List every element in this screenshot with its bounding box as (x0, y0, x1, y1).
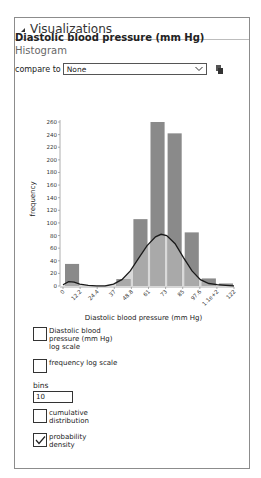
x-log-scale-label: Diastolic blood pressure (mm Hg) log sca… (49, 327, 119, 351)
chart-kind-label: Histogram (15, 45, 251, 56)
variable-title: Diastolic blood pressure (mm Hg) (15, 32, 251, 43)
y-tick-label: 80 (50, 233, 57, 239)
compare-selected-value: None (67, 65, 87, 74)
y-tick-label: 40 (50, 258, 57, 264)
density-area (63, 234, 234, 286)
y-tick-label: 160 (47, 182, 58, 188)
chevron-down-icon (195, 66, 203, 72)
histogram-chart: 020406080100120140160180200220240260012.… (14, 105, 249, 330)
x-log-scale-option: Diastolic blood pressure (mm Hg) log sca… (33, 327, 129, 351)
y-tick-label: 260 (47, 119, 58, 125)
x-tick-label: 97.6 (190, 288, 203, 301)
y-tick-label: 100 (47, 220, 58, 226)
compare-label: compare to (15, 65, 61, 74)
y-tick-label: 0 (54, 283, 58, 289)
y-tick-label: 200 (47, 157, 58, 163)
y-tick-label: 220 (47, 144, 58, 150)
x-axis-label: Diastolic blood pressure (mm Hg) (85, 314, 203, 322)
y-tick-label: 60 (50, 245, 57, 251)
x-tick-label: 37 (108, 288, 118, 298)
x-tick-label: 24.4 (87, 288, 100, 301)
y-tick-label: 120 (47, 207, 58, 213)
x-tick-label: 12.2 (70, 288, 83, 301)
bins-label: bins (33, 381, 129, 390)
x-log-scale-checkbox[interactable] (33, 327, 47, 341)
histogram-controls: Diastolic blood pressure (mm Hg) log sca… (33, 327, 129, 457)
x-tick-label: 73 (159, 288, 169, 298)
compare-to-dropdown[interactable]: None (63, 63, 207, 75)
x-tick-label: 1.1e+2 (201, 288, 220, 307)
compare-row: compare to None (15, 63, 251, 75)
copy-icon[interactable] (216, 65, 224, 74)
x-tick-label: 122 (225, 288, 237, 300)
visualization-content: Diastolic blood pressure (mm Hg) Histogr… (15, 32, 251, 75)
freq-log-scale-checkbox[interactable] (33, 359, 47, 373)
cumulative-checkbox[interactable] (33, 409, 47, 423)
freq-log-scale-label: frequency log scale (49, 359, 129, 367)
bins-input[interactable]: 10 (33, 391, 73, 403)
x-tick-label: 85 (176, 288, 186, 298)
checkmark-icon (34, 434, 46, 446)
x-tick-label: 61 (142, 288, 151, 297)
cumulative-option: cumulative distribution (33, 409, 129, 425)
probability-density-checkbox[interactable] (33, 433, 47, 447)
y-tick-label: 140 (47, 195, 58, 201)
x-tick-label: 48.8 (121, 288, 134, 301)
x-tick-label: 0 (59, 288, 66, 295)
probability-density-label: probability density (49, 433, 99, 449)
probability-density-option: probability density (33, 433, 129, 449)
y-axis-label: frequency (29, 181, 37, 216)
y-tick-label: 180 (47, 169, 58, 175)
cumulative-label: cumulative distribution (49, 409, 99, 425)
freq-log-scale-option: frequency log scale (33, 359, 129, 373)
y-tick-label: 20 (50, 270, 57, 276)
y-tick-label: 240 (47, 132, 58, 138)
